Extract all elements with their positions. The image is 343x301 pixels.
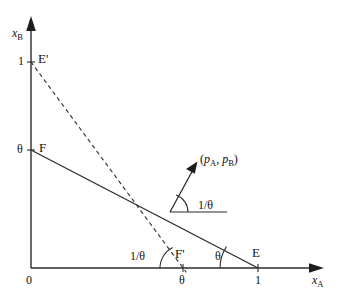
angle-label-at-tangency: 1/θ (198, 199, 213, 211)
price-vector-close: ) (234, 152, 238, 166)
y-axis (26, 16, 36, 268)
angle-label-at-E: θ (215, 250, 221, 262)
point-label-F-prime: F' (175, 247, 185, 260)
y-axis-label: xB (12, 27, 23, 39)
point-label-F: F (39, 141, 46, 154)
x-axis (31, 263, 324, 273)
x-axis-label: xA (312, 274, 323, 286)
y-tick-label-1: 1 (18, 55, 24, 67)
price-vector-pA-sub: A (210, 158, 216, 168)
price-vector-label: (pA, pB) (200, 153, 238, 165)
diagram-svg (0, 0, 343, 301)
price-vector-pB-sub: B (228, 158, 234, 168)
diagram-canvas: xB xA 1 θ 0 θ 1 E' F F' E θ 1/θ 1/θ (pA,… (0, 0, 343, 301)
x-tick-label-theta: θ (179, 274, 185, 286)
angle-arc-at-Fprime (160, 248, 173, 269)
x-tick-label-1: 1 (255, 274, 261, 286)
tick-marks (27, 62, 258, 272)
angle-label-at-F-prime: 1/θ (130, 250, 145, 262)
x-tick-label-0: 0 (26, 274, 32, 286)
point-label-E: E (252, 246, 260, 259)
price-vector-arrow (170, 162, 198, 213)
point-label-E-prime: E' (38, 52, 48, 65)
dashed-line-EprimeFprime (31, 62, 186, 272)
y-tick-label-theta: θ (17, 143, 23, 155)
